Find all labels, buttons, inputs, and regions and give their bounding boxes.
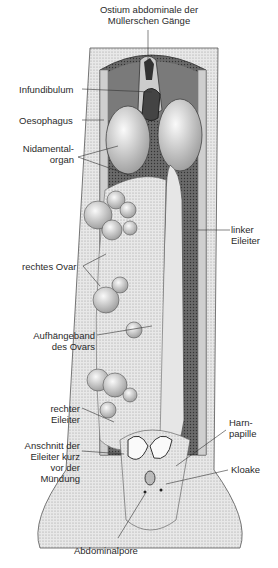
- label-abdominalpore: Abdominalpore: [74, 545, 138, 556]
- label-ostium: Ostium abdominale der Müllerschen Gänge: [84, 4, 214, 26]
- label-linker-eileiter: linker Eileiter: [231, 224, 260, 246]
- label-anschnitt: Anschnitt der Eileiter kurz vor der Münd…: [10, 440, 80, 484]
- label-kloake: Kloake: [231, 464, 260, 475]
- label-oesophagus: Oesophagus: [19, 115, 73, 126]
- label-nidamentalorgan: Nidamental- organ: [10, 143, 74, 165]
- label-rechter-eileiter: rechter Eileiter: [10, 403, 80, 425]
- label-harnpapille: Harn- papille: [229, 417, 256, 439]
- label-aufhaengeband: Aufhängeband des Ovars: [10, 330, 95, 352]
- label-rechtes-ovar: rechtes Ovar: [22, 261, 76, 272]
- label-infundibulum: Infundibulum: [19, 84, 73, 95]
